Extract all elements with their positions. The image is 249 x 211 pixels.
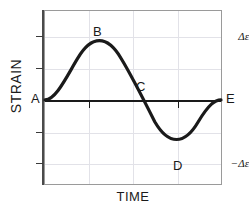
strain-time-chart: Δε −Δε STRAIN A B C D E TIME bbox=[0, 0, 249, 211]
x-axis-title: TIME bbox=[44, 189, 222, 204]
plot-area bbox=[44, 10, 222, 185]
y-axis-title: STRAIN bbox=[8, 44, 24, 128]
point-label-c: C bbox=[136, 80, 145, 93]
y-tick-mid-lower bbox=[36, 132, 43, 133]
point-label-b: B bbox=[93, 25, 102, 38]
y-tick-mid-upper bbox=[36, 68, 43, 69]
point-label-a: A bbox=[31, 92, 40, 105]
point-label-d: D bbox=[173, 159, 182, 172]
strain-curve bbox=[45, 11, 221, 184]
y-tick-negative-delta bbox=[36, 163, 43, 164]
y-tick-positive-delta bbox=[36, 36, 43, 37]
point-label-e: E bbox=[226, 92, 235, 105]
